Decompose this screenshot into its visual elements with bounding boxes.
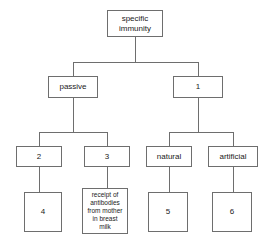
node-label: 4 [25, 207, 61, 217]
node-specific-immunity: specific immunity [107, 10, 163, 37]
node-natural: natural [146, 146, 192, 167]
node-blank-5: 5 [148, 192, 188, 232]
node-blank-6: 6 [212, 192, 252, 232]
node-label: receipt of antibodies from mother in bre… [83, 191, 127, 231]
node-label: 6 [213, 207, 251, 217]
node-label: 2 [17, 152, 61, 162]
concept-map-diagram: specific immunity passive 1 2 3 natural … [0, 0, 272, 250]
node-blank-1: 1 [173, 76, 223, 98]
node-label: natural [147, 152, 191, 162]
node-label: artificial [209, 152, 257, 162]
node-label: specific immunity [108, 14, 162, 33]
node-label: 3 [85, 152, 129, 162]
node-blank-2: 2 [16, 146, 62, 167]
node-breast-milk-antibodies: receipt of antibodies from mother in bre… [82, 188, 128, 234]
node-label: 5 [149, 207, 187, 217]
node-label: passive [49, 82, 97, 92]
node-blank-3: 3 [84, 146, 130, 167]
node-passive: passive [48, 76, 98, 98]
node-artificial: artificial [208, 146, 258, 167]
node-label: 1 [174, 82, 222, 92]
node-blank-4: 4 [24, 192, 62, 232]
